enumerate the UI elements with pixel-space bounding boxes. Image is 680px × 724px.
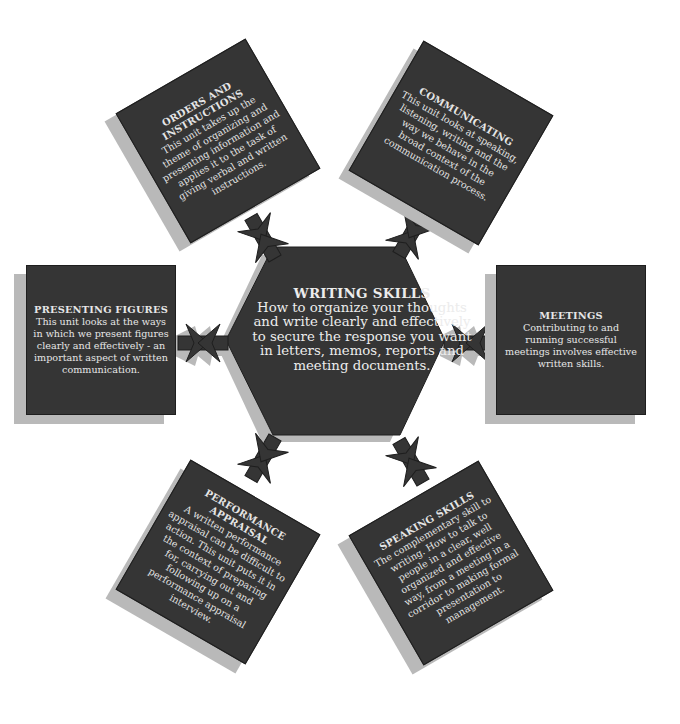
unit-title: PRESENTING FIGURES [34, 304, 168, 316]
central-topic-title: WRITING SKILLS [252, 286, 472, 301]
unit-box-presenting-figures: PRESENTING FIGURES This unit looks at th… [26, 265, 176, 415]
unit-box-meetings: MEETINGS Contributing to and running suc… [496, 265, 646, 415]
central-topic: WRITING SKILLS How to organize your thou… [252, 286, 472, 374]
unit-description: Contributing to and running successful m… [503, 322, 639, 370]
writing-skills-diagram: WRITING SKILLS How to organize your thou… [0, 0, 680, 724]
unit-title: MEETINGS [539, 310, 603, 322]
unit-description: This unit looks at the ways in which we … [33, 316, 169, 376]
connector-lower-right [383, 431, 440, 492]
central-topic-description: How to organize your thoughts and write … [252, 301, 472, 374]
